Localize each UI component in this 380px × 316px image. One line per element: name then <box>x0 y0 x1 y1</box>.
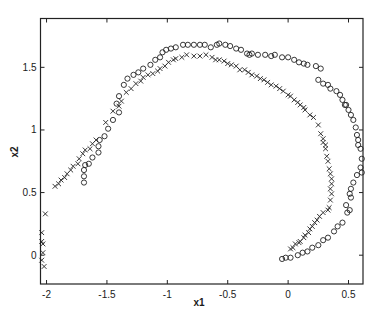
cross-point <box>41 250 46 255</box>
circle-point <box>321 238 326 243</box>
circle-point <box>110 117 115 122</box>
circle-point <box>346 107 351 112</box>
circle-point <box>238 47 243 52</box>
circle-point <box>295 253 300 258</box>
circle-point <box>102 134 107 139</box>
data-marks <box>39 41 364 269</box>
circle-point <box>81 174 86 179</box>
cross-point <box>324 154 329 159</box>
cross-point <box>328 171 333 176</box>
cross-point <box>166 60 171 65</box>
circle-point <box>208 45 213 50</box>
x-axis-ticks: -2-1.5-1-0.500.5 <box>42 19 356 301</box>
circle-point <box>296 60 301 65</box>
circle-point <box>353 125 358 130</box>
cross-point <box>204 52 209 57</box>
circle-point <box>191 42 196 47</box>
circle-point <box>131 72 136 77</box>
circle-point <box>234 46 239 51</box>
circle-point <box>318 66 323 71</box>
circle-point <box>305 249 310 254</box>
cross-point <box>150 71 155 76</box>
circle-point <box>96 150 101 155</box>
cross-point <box>229 62 234 67</box>
circle-point <box>81 167 86 172</box>
cross-point <box>134 81 139 86</box>
circle-point <box>356 137 361 142</box>
circle-point <box>356 142 361 147</box>
circle-point <box>148 62 153 67</box>
cross-point <box>43 211 48 216</box>
circle-point <box>263 52 268 57</box>
cross-point <box>328 198 333 203</box>
circle-point <box>354 172 359 177</box>
cross-point <box>94 138 99 143</box>
circle-point <box>121 82 126 87</box>
cross-point <box>329 181 334 186</box>
x-tick-label: -2 <box>42 289 51 300</box>
circle-point <box>348 186 353 191</box>
circle-point <box>164 47 169 52</box>
series-circles <box>81 41 364 262</box>
cross-point <box>326 159 331 164</box>
circle-point <box>96 144 101 149</box>
circle-point <box>359 156 364 161</box>
circle-point <box>331 229 336 234</box>
circle-point <box>359 170 364 175</box>
circle-point <box>279 55 284 60</box>
cross-point <box>191 54 196 59</box>
cross-point <box>328 186 333 191</box>
series-crosses <box>39 52 334 268</box>
circle-point <box>153 57 158 62</box>
cross-point <box>329 176 334 181</box>
circle-point <box>228 43 233 48</box>
cross-point <box>297 240 302 245</box>
circle-point <box>337 92 342 97</box>
x-tick-label: 0.5 <box>342 289 356 300</box>
cross-point <box>158 66 163 71</box>
y-tick-label: 0.5 <box>23 187 37 198</box>
cross-point <box>318 131 323 136</box>
cross-point <box>103 120 108 125</box>
circle-point <box>141 66 146 71</box>
circle-point <box>136 70 141 75</box>
circle-point <box>300 250 305 255</box>
cross-point <box>146 72 151 77</box>
y-tick-label: 1.5 <box>23 62 37 73</box>
circle-point <box>325 82 330 87</box>
circle-point <box>292 57 297 62</box>
cross-point <box>327 166 332 171</box>
cross-point <box>129 86 134 91</box>
circle-point <box>343 203 348 208</box>
circle-point <box>157 55 162 60</box>
circle-point <box>316 243 321 248</box>
cross-point <box>217 57 222 62</box>
cross-point <box>179 55 184 60</box>
cross-point <box>77 156 82 161</box>
circle-point <box>125 76 130 81</box>
scatter-chart: -2-1.5-1-0.500.5 00.511.5 x1 x2 <box>0 0 380 316</box>
circle-point <box>325 235 330 240</box>
cross-point <box>323 146 328 151</box>
x-tick-label: -1.5 <box>98 289 116 300</box>
circle-point <box>335 224 340 229</box>
x-tick-label: -0.5 <box>219 289 237 300</box>
circle-point <box>316 77 321 82</box>
cross-point <box>198 54 203 59</box>
cross-point <box>88 146 93 151</box>
circle-point <box>116 110 121 115</box>
cross-point <box>111 109 116 114</box>
cross-point <box>329 191 334 196</box>
circle-point <box>351 117 356 122</box>
cross-point <box>184 52 189 57</box>
y-tick-label: 0 <box>31 250 37 261</box>
x-tick-label: 0 <box>285 289 291 300</box>
circle-point <box>255 52 260 57</box>
cross-point <box>316 123 321 128</box>
circle-point <box>168 46 173 51</box>
circle-point <box>160 50 165 55</box>
cross-point <box>237 67 242 72</box>
circle-point <box>173 45 178 50</box>
circle-point <box>116 94 121 99</box>
cross-point <box>124 90 129 95</box>
